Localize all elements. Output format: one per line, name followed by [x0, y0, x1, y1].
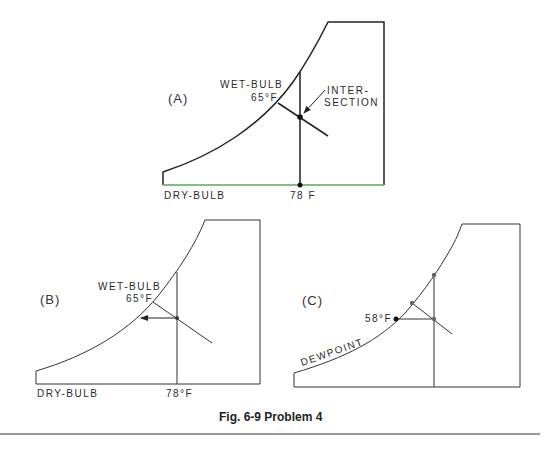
- intersection-label-line2: SECTION: [324, 97, 379, 108]
- saturation-point-c: [432, 273, 436, 277]
- panel-c: (C) 58°F DEWPOINT: [294, 224, 520, 387]
- state-point-c: [432, 317, 436, 321]
- panel-b: (B) WET-BULB 65°F DRY-BULB 78°F: [36, 220, 260, 399]
- dry-bulb-label-b: DRY-BULB: [37, 388, 98, 399]
- dry-bulb-label-a: DRY-BULB: [164, 190, 225, 201]
- wet-bulb-line-a: [278, 103, 328, 136]
- chart-outline-c: [294, 224, 520, 387]
- dry-bulb-value-b: 78°F: [166, 388, 193, 399]
- wet-bulb-value-b: 65°F: [126, 293, 153, 304]
- wet-bulb-value-a: 65°F: [251, 92, 278, 103]
- intersection-leader-arrow: [304, 90, 325, 113]
- wet-bulb-point-c: [410, 301, 414, 305]
- wet-bulb-label-a: WET-BULB: [220, 79, 283, 90]
- dewpoint-label-c: DEWPOINT: [299, 336, 365, 368]
- psychrometric-figure: (A) WET-BULB 65°F INTER- SECTION DRY-BUL…: [0, 0, 553, 450]
- panel-label-a: (A): [168, 91, 188, 106]
- panel-label-b: (B): [40, 292, 60, 307]
- intersection-point-a: [297, 114, 303, 120]
- dewpoint-point-c: [394, 317, 399, 322]
- intersection-label-line1: INTER-: [327, 85, 369, 96]
- panel-label-c: (C): [302, 293, 323, 308]
- dry-bulb-point-a: [298, 183, 303, 188]
- wet-bulb-label-b: WET-BULB: [98, 281, 161, 292]
- dewpoint-value-c: 58°F: [365, 313, 392, 324]
- intersection-point-b: [175, 316, 179, 320]
- panel-a: (A) WET-BULB 65°F INTER- SECTION DRY-BUL…: [163, 22, 384, 201]
- figure-caption: Fig. 6-9 Problem 4: [219, 410, 323, 424]
- dry-bulb-value-a: 78 F: [290, 190, 316, 201]
- wet-bulb-line-b: [153, 302, 212, 343]
